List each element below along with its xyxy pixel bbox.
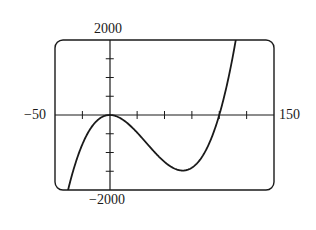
x-max-label: 150 xyxy=(279,108,300,122)
graph-plot xyxy=(0,0,316,230)
x-min-label: −50 xyxy=(24,108,46,122)
y-min-label: −2000 xyxy=(89,193,125,207)
y-max-label: 2000 xyxy=(94,22,122,36)
